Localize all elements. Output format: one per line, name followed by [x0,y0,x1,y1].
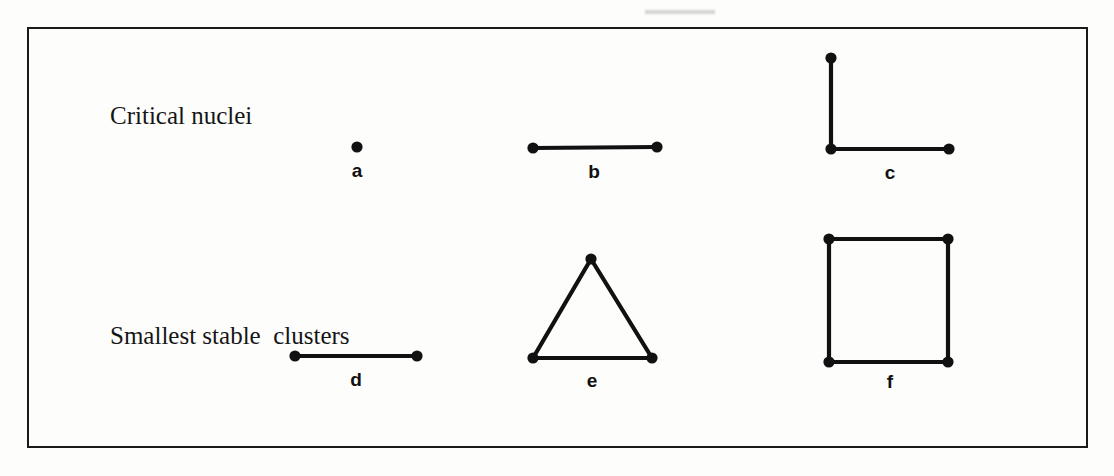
panel-label-e: e [572,371,612,390]
panel-label-c: c [870,163,910,182]
panel-label-b: b [574,162,614,181]
scanned-page-background: Critical nuclei Smallest stable clusters… [0,0,1114,476]
panel-label-f: f [870,372,910,391]
scan-smudge-artifact [645,10,715,14]
row-caption-critical-nuclei: Critical nuclei [110,103,252,128]
panel-label-d: d [336,370,376,389]
figure-border-frame [27,27,1088,448]
panel-label-a: a [337,161,377,180]
row-caption-smallest-stable: Smallest stable clusters [110,323,350,348]
